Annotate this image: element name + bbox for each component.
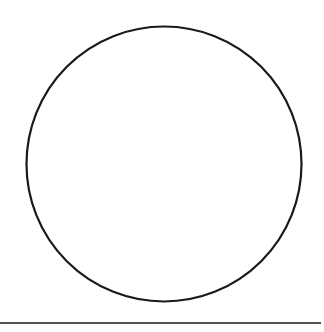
diagram-canvas xyxy=(0,0,324,332)
background xyxy=(0,0,324,332)
